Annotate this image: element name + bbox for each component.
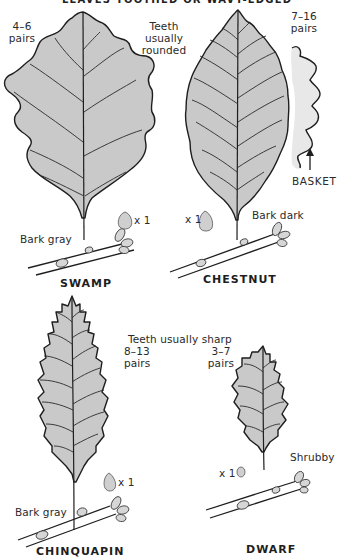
swamp-acorn-scale: x 1 [134, 214, 151, 226]
teeth-range: 7–16 [284, 10, 324, 22]
oak-leaves-illustration [0, 0, 340, 560]
chinquapin-bark-note: Bark gray [15, 506, 67, 518]
chinquapin-acorn-icon [104, 473, 116, 491]
swamp-bark-note: Bark gray [20, 233, 72, 245]
chinquapin-leaf [38, 296, 108, 530]
dwarf-acorn-scale: x 1 [219, 467, 236, 479]
chinquapin-teeth-count: 8–13 pairs [124, 345, 150, 369]
basket-leaf-fragment [291, 47, 320, 169]
teeth-range: 3–7 [206, 345, 236, 357]
dwarf-teeth-count: 3–7 pairs [206, 345, 236, 369]
basket-variant-label: BASKET [292, 175, 337, 187]
chinquapin-species-label: CHINQUAPIN [36, 545, 124, 558]
dwarf-species-label: DWARF [246, 543, 296, 556]
rounded-teeth-caption: Teeth usually rounded [124, 20, 204, 56]
swamp-teeth-count: 4–6 pairs [4, 20, 40, 44]
chestnut-bark-note: Bark dark [252, 209, 304, 221]
dwarf-acorn-icon [237, 467, 245, 477]
basket-teeth-count: 7–16 pairs [284, 10, 324, 34]
swamp-species-label: SWAMP [60, 277, 112, 290]
pairs-label: pairs [124, 357, 150, 369]
pairs-label: pairs [206, 357, 236, 369]
dwarf-habit-note: Shrubby [290, 451, 335, 463]
chinquapin-acorn-scale: x 1 [118, 476, 135, 488]
dwarf-leaf [232, 346, 288, 470]
teeth-range: 4–6 [4, 20, 40, 32]
pairs-label: pairs [284, 22, 324, 34]
sharp-teeth-caption: Teeth usually sharp [128, 333, 232, 345]
swamp-acorn-icon [118, 212, 132, 229]
chestnut-acorn-scale: x 1 [185, 213, 202, 225]
teeth-range: 8–13 [124, 345, 150, 357]
chestnut-twig [170, 221, 291, 278]
chestnut-species-label: CHESTNUT [203, 273, 277, 286]
caption-text: Teeth usually rounded [130, 20, 198, 56]
pairs-label: pairs [4, 32, 40, 44]
